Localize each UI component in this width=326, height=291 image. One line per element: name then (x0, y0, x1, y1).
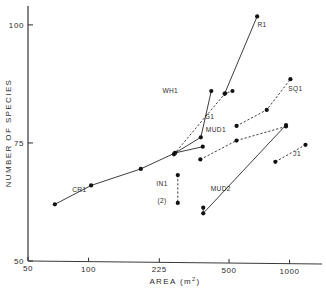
data-point-SQ1-2 (288, 77, 292, 81)
series-labels: CR1WH1G1R1SQ1MUD1MUD2J1IN1(2) (72, 21, 302, 205)
series-lines (55, 16, 306, 213)
species-area-scatter-chart: 501002255001000 5075100 CR1WH1G1R1SQ1MUD… (0, 0, 326, 291)
x-tick-label-225: 225 (152, 265, 167, 274)
series-label-G1: G1 (205, 113, 215, 120)
series-label-J1: J1 (293, 150, 301, 157)
series-sublabel-IN1: (2) (157, 197, 166, 205)
data-point-J1-1 (303, 143, 307, 147)
data-point-J1-0 (273, 160, 277, 164)
data-point-MUD2-1 (201, 211, 205, 215)
data-point-R1-1 (255, 14, 259, 18)
data-point-G1-0 (172, 152, 176, 156)
data-point-SQ1-1 (265, 108, 269, 112)
x-axis-title: AREA (m2) (149, 276, 200, 286)
series-label-MUD1: MUD1 (206, 126, 226, 133)
series-points (53, 14, 308, 215)
data-point-IN1-1 (176, 201, 180, 205)
data-point-MUD1-1 (234, 138, 238, 142)
series-label-WH1: WH1 (162, 87, 178, 94)
plot-canvas: 501002255001000 5075100 CR1WH1G1R1SQ1MUD… (0, 0, 326, 291)
y-tick-label-75: 75 (14, 139, 24, 148)
data-point-CR1-4 (201, 145, 205, 149)
x-axis-ticks: 501002255001000 (23, 257, 300, 276)
series-label-MUD2: MUD2 (211, 185, 231, 192)
data-point-CR1-2 (139, 167, 143, 171)
series-line-WH1 (175, 91, 212, 153)
data-point-WH1-1 (199, 135, 203, 139)
data-point-G1-2 (230, 89, 234, 93)
x-tick-label-50: 50 (23, 264, 33, 273)
data-point-MUD2-0 (201, 206, 205, 210)
x-tick-label-1000: 1000 (279, 267, 299, 276)
x-axis-line (28, 261, 322, 264)
series-line-SQ1 (237, 79, 291, 126)
data-point-SQ1-0 (234, 124, 238, 128)
y-tick-label-50: 50 (14, 257, 24, 266)
series-label-IN1: IN1 (156, 180, 167, 187)
axes (28, 6, 322, 264)
y-tick-label-100: 100 (9, 21, 24, 30)
x-tick-label-500: 500 (221, 266, 236, 275)
y-axis-title: NUMBER OF SPECIES (4, 79, 13, 188)
data-point-CR1-1 (89, 183, 93, 187)
data-point-CR1-0 (53, 202, 57, 206)
series-line-J1 (275, 145, 305, 162)
data-point-WH1-2 (209, 89, 213, 93)
axis-titles: AREA (m2) NUMBER OF SPECIES (4, 79, 201, 286)
data-point-MUD1-0 (198, 157, 202, 161)
series-label-SQ1: SQ1 (288, 85, 302, 93)
series-label-R1: R1 (258, 21, 267, 28)
series-label-CR1: CR1 (72, 186, 86, 193)
series-line-CR1 (55, 147, 203, 205)
data-point-MUD2-2 (284, 123, 288, 127)
x-tick-label-100: 100 (81, 265, 96, 274)
series-line-R1 (225, 16, 258, 93)
data-point-IN1-0 (176, 173, 180, 177)
data-point-R1-0 (222, 92, 226, 96)
